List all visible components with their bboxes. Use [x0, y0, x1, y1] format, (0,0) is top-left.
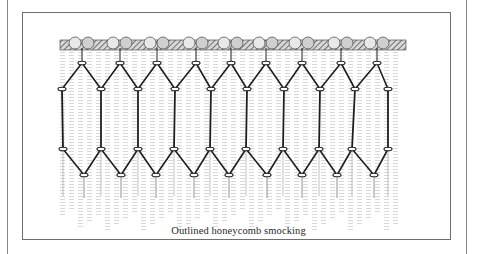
- pleat-shading: [60, 52, 398, 232]
- figure-caption: Outlined honeycomb smocking: [0, 225, 477, 236]
- honeycomb-smocking-illustration: [0, 0, 477, 254]
